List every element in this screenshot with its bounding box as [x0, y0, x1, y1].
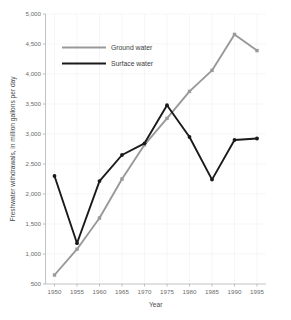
x-tick-label: 1955 — [70, 288, 84, 295]
x-tick-label: 1990 — [228, 288, 242, 295]
data-point — [210, 178, 214, 182]
line-chart: 5001,0001,5002,0002,5003,0003,5004,0004,… — [0, 0, 291, 320]
y-tick-label: 2,000 — [26, 190, 42, 197]
y-tick-label: 500 — [31, 280, 42, 287]
data-point — [233, 33, 236, 36]
y-tick-label: 3,500 — [26, 100, 42, 107]
x-tick-label: 1970 — [138, 288, 152, 295]
data-point — [75, 241, 79, 245]
y-tick-label: 4,000 — [26, 70, 42, 77]
chart-legend: Ground waterSurface water — [62, 44, 154, 67]
y-axis-ticks: 5001,0001,5002,0002,5003,0003,5004,0004,… — [26, 10, 46, 287]
data-point — [98, 216, 101, 219]
x-tick-label: 1980 — [183, 288, 197, 295]
data-point — [233, 138, 237, 142]
data-point — [143, 141, 147, 145]
y-tick-label: 3,000 — [26, 130, 42, 137]
data-point — [53, 174, 57, 178]
data-point — [120, 153, 124, 157]
legend-label-surface-water: Surface water — [111, 60, 154, 67]
y-tick-label: 2,500 — [26, 160, 42, 167]
data-point — [188, 90, 191, 93]
data-point — [120, 177, 123, 180]
x-axis-title: Year — [149, 301, 163, 308]
data-point — [188, 135, 192, 139]
data-point — [255, 49, 258, 52]
x-tick-label: 1975 — [160, 288, 174, 295]
y-tick-label: 4,500 — [26, 40, 42, 47]
series-line — [55, 105, 258, 243]
y-tick-label: 1,000 — [26, 250, 42, 257]
data-point — [53, 273, 56, 276]
data-point — [165, 103, 169, 107]
chart-figure: 5001,0001,5002,0002,5003,0003,5004,0004,… — [0, 0, 291, 320]
legend-label-ground-water: Ground water — [111, 44, 153, 51]
x-tick-label: 1995 — [250, 288, 264, 295]
data-point — [75, 248, 78, 251]
data-point — [255, 137, 259, 141]
data-point — [210, 69, 213, 72]
y-tick-label: 1,500 — [26, 220, 42, 227]
x-tick-label: 1960 — [93, 288, 107, 295]
x-tick-label: 1965 — [115, 288, 129, 295]
data-point — [165, 117, 168, 120]
x-axis-ticks: 1950195519601965197019751980198519901995 — [48, 284, 265, 295]
y-tick-label: 5,000 — [26, 10, 42, 17]
x-tick-label: 1985 — [205, 288, 219, 295]
x-tick-label: 1950 — [48, 288, 62, 295]
y-axis-title: Freshwater withdrawals, in million gallo… — [9, 76, 17, 222]
data-point — [98, 179, 102, 183]
series-ground-water — [53, 33, 259, 277]
